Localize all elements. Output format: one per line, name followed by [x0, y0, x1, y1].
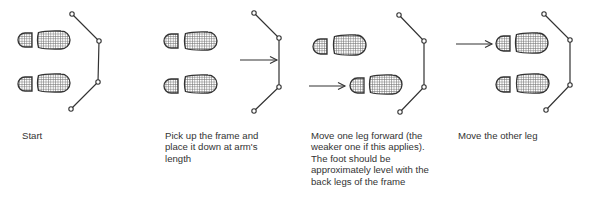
sole-print-icon [517, 74, 550, 93]
sole-print-icon [185, 32, 218, 50]
step-pick-up-frame [164, 11, 281, 113]
walking-frame-icon [542, 12, 572, 112]
frame-leg-tip-icon [542, 12, 546, 16]
footprint [18, 74, 70, 92]
footprint [313, 35, 366, 55]
frame-leg-tip-icon [568, 83, 572, 87]
heel-print-icon [496, 77, 510, 92]
frame-leg-tip-icon [252, 109, 256, 113]
walking-frame-icon [397, 13, 426, 114]
sole-print-icon [185, 75, 218, 93]
heel-print-icon [18, 77, 32, 91]
frame-leg-tip-icon [422, 85, 426, 89]
arrow-right-icon [240, 57, 277, 64]
step-move-one-leg [309, 13, 426, 114]
frame-leg-tip-icon [96, 80, 100, 84]
frame-leg-tip-icon [69, 107, 73, 111]
footprint [350, 75, 402, 94]
frame-leg-tip-icon [277, 85, 281, 89]
heel-print-icon [164, 79, 178, 93]
footprint [164, 32, 217, 50]
heel-print-icon [313, 39, 327, 54]
frame-leg-tip-icon [422, 39, 426, 43]
heel-print-icon [164, 34, 178, 48]
frame-leg-tip-icon [277, 36, 281, 40]
heel-print-icon [18, 33, 32, 47]
frame-leg-tip-icon [70, 12, 74, 16]
frame-leg-tip-icon [398, 110, 402, 114]
footprint [164, 75, 217, 93]
step-move-other-leg [456, 12, 572, 112]
arrow-right-icon [456, 41, 492, 48]
caption-move-other-leg: Move the other leg [458, 130, 540, 141]
frame-leg-tip-icon [252, 11, 256, 15]
sole-print-icon [516, 33, 549, 53]
footprint [496, 33, 548, 53]
walking-frame-diagram [0, 0, 595, 200]
caption-pick-up-frame: Pick up the frame and place it down at a… [165, 130, 273, 164]
sole-print-icon [38, 74, 71, 92]
caption-move-one-leg: Move one leg forward (the weaker one if … [311, 130, 429, 187]
walking-frame-icon [69, 12, 101, 111]
frame-leg-tip-icon [397, 13, 401, 17]
footprint [18, 31, 70, 49]
footprint [496, 74, 549, 93]
frame-leg-tip-icon [568, 38, 572, 42]
frame-leg-tip-icon [97, 39, 101, 43]
walking-frame-icon [252, 11, 281, 113]
step-start [18, 12, 101, 111]
caption-start: Start [22, 130, 92, 141]
sole-print-icon [370, 75, 403, 94]
sole-print-icon [38, 31, 71, 49]
heel-print-icon [350, 78, 364, 93]
frame-leg-tip-icon [544, 108, 548, 112]
heel-print-icon [496, 36, 510, 51]
arrow-right-icon [309, 83, 345, 90]
sole-print-icon [334, 35, 367, 55]
